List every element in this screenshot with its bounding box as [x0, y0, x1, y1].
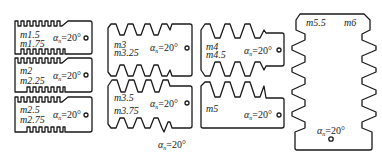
gauge-8-module-1: m5.5 [306, 18, 326, 27]
gauge-4-pressure-angle: αn=20° [150, 43, 178, 56]
gauge-3-pressure-angle: αn=20° [53, 110, 81, 123]
gauge-7-hole [277, 113, 281, 117]
gauge-8-pressure-angle: αn=20° [317, 126, 345, 139]
gauge-3-module-2: m2.75 [20, 115, 45, 124]
figure-caption-pressure-angle: αn=20° [158, 140, 186, 153]
gauge-7-module-1: m5 [206, 104, 218, 113]
gauge-5-hole [185, 101, 189, 105]
gauge-7-pressure-angle: αn=20° [244, 110, 272, 123]
gauge-5-module-1: m3.5 [114, 93, 134, 102]
gauge-3-module-1: m2.5 [20, 105, 40, 114]
gauge-1-pressure-angle: αn=20° [53, 33, 81, 46]
gauge-2-hole [84, 73, 88, 77]
gauge-4-module-2: m3.25 [114, 48, 139, 57]
gauge-5-module-2: m3.75 [114, 106, 139, 115]
gauge-2-module-1: m2 [20, 66, 32, 75]
gauge-6-module-2: m4.5 [206, 50, 226, 59]
gauge-8-module-2: m6 [344, 18, 356, 27]
gauge-1-hole [84, 36, 88, 40]
gauge-4-hole [185, 46, 189, 50]
gauge-2-pressure-angle: αn=20° [53, 71, 81, 84]
gauge-6-pressure-angle: αn=20° [244, 46, 272, 59]
gauge-5-pressure-angle: αn=20° [150, 99, 178, 112]
gauge-1-module-2: m1.75 [20, 39, 45, 48]
gauge-6-hole [277, 48, 281, 52]
gauge-2-module-2: m2.25 [20, 76, 45, 85]
gauge-3-hole [84, 113, 88, 117]
